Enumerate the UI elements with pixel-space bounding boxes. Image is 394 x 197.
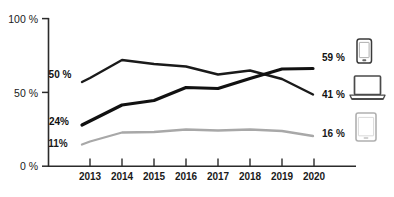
x-axis-label-2017: 2017 xyxy=(207,171,230,182)
laptop-icon xyxy=(350,76,385,99)
value-label-smartphone-start: 24% xyxy=(49,116,69,127)
chart-caption xyxy=(22,186,322,197)
tablet-icon xyxy=(356,113,376,141)
value-label-laptop-start: 50 % xyxy=(49,69,72,80)
x-axis-label-2019: 2019 xyxy=(271,171,294,182)
y-axis-label-50: 50 % xyxy=(14,87,38,99)
line-chart: 100 % 50 % 0 % 50 % 24% 11% 59 % 41 % 16… xyxy=(0,0,394,197)
chart-canvas: 100 % 50 % 0 % 50 % 24% 11% 59 % 41 % 16… xyxy=(0,0,394,197)
value-label-smartphone-end: 59 % xyxy=(322,52,345,63)
x-axis-label-2016: 2016 xyxy=(175,171,198,182)
smartphone-icon xyxy=(357,39,372,63)
x-axis-label-2015: 2015 xyxy=(143,171,166,182)
value-label-tablet-start: 11% xyxy=(48,138,68,149)
x-axis-label-2014: 2014 xyxy=(111,171,134,182)
x-axis-label-2018: 2018 xyxy=(239,171,262,182)
value-label-tablet-end: 16 % xyxy=(322,128,345,139)
x-axis-label-2013: 2013 xyxy=(79,171,102,182)
value-label-laptop-end: 41 % xyxy=(322,89,345,100)
y-axis-label-100: 100 % xyxy=(8,13,38,25)
x-axis-label-2020: 2020 xyxy=(303,171,326,182)
series-line-tablet xyxy=(82,130,313,145)
y-axis-label-0: 0 % xyxy=(20,160,38,172)
